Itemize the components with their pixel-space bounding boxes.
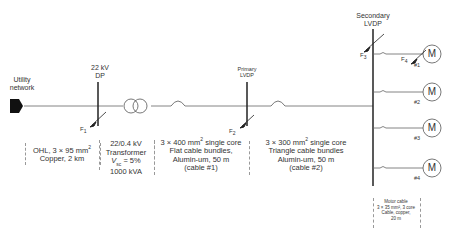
transformer-line4: 1000 kVA	[99, 168, 153, 177]
utility-label-line1: Utility	[4, 76, 40, 84]
motor-4-symbol: M	[426, 162, 438, 174]
primary-lvdp-label-line2: LVDP	[232, 72, 262, 78]
dp-label-line1: 22 kV	[85, 64, 115, 72]
transformer-line3: Vsc = 5%	[99, 157, 153, 167]
motor-2-symbol: M	[426, 86, 438, 98]
dp-label: 22 kV DP	[85, 64, 115, 80]
secondary-lvdp-label: Secondary LVDP	[353, 12, 393, 28]
cable2-icon	[271, 101, 285, 107]
motor-1-symbol: M	[426, 48, 438, 60]
cable1-line4: (cable #1)	[154, 164, 248, 173]
dp-label-line2: DP	[85, 72, 115, 80]
primary-lvdp-label: Primary LVDP	[232, 66, 262, 79]
fault-f3-arrow-icon	[364, 34, 384, 52]
cable2-description: 3 × 300 mm2 single core Triangle cable b…	[256, 137, 356, 173]
utility-network-label: Utility network	[4, 76, 40, 92]
fault-f2-label: F2	[229, 128, 235, 137]
fault-f1-label: F1	[80, 126, 86, 135]
utility-label-line2: network	[4, 84, 40, 92]
ohl-description: OHL, 3 × 95 mm2 Copper, 2 km	[25, 145, 99, 164]
secondary-lvdp-label-line1: Secondary	[353, 12, 393, 20]
cable1-description: 3 × 400 mm2 single core Flat cable bundl…	[154, 137, 248, 173]
motor-4-label: #4	[414, 175, 420, 181]
cable1-icon	[171, 101, 185, 107]
motor-cable-line4: 20 m	[373, 216, 419, 222]
motor-1-label: #1	[414, 62, 420, 68]
fault-f3-label: F3	[360, 52, 366, 61]
fault-f4-label: F4	[401, 56, 407, 65]
motor-3-symbol: M	[426, 122, 438, 134]
motor-2-label: #2	[414, 99, 420, 105]
motor-cable-description: Motor cable 3 × 35 mm², 3 core Cable, co…	[373, 199, 419, 222]
secondary-lvdp-label-line2: LVDP	[353, 20, 393, 28]
motor-3-label: #3	[414, 135, 420, 141]
transformer-icon	[123, 96, 151, 116]
transformer-description: 22/0.4 kV Transformer Vsc = 5% 1000 kVA	[99, 140, 153, 176]
cable2-line4: (cable #2)	[256, 164, 356, 173]
ohl-line2: Copper, 2 km	[25, 155, 99, 164]
utility-arrow-icon	[10, 99, 23, 113]
